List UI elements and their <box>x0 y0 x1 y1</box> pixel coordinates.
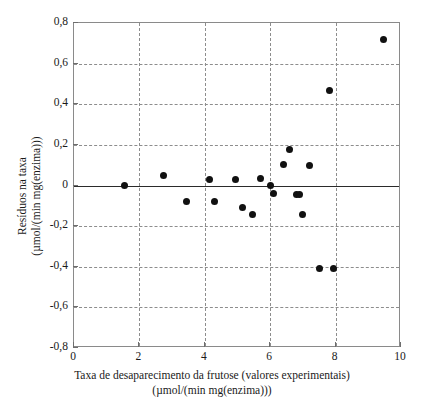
gridline-vertical <box>205 23 206 346</box>
data-point <box>306 162 313 169</box>
data-point <box>232 176 239 183</box>
gridline-vertical <box>336 23 337 346</box>
y-tick-label: -0,6 <box>50 300 68 312</box>
data-point <box>206 176 213 183</box>
data-point <box>316 265 323 272</box>
data-point <box>121 182 128 189</box>
data-point <box>380 36 387 43</box>
y-tick-mark <box>73 144 78 145</box>
x-tick-mark <box>269 342 270 347</box>
gridline-horizontal <box>74 104 399 105</box>
gridline-horizontal <box>74 64 399 65</box>
gridline-vertical <box>139 23 140 346</box>
y-tick-mark <box>73 347 78 348</box>
x-tick-label: 6 <box>266 350 272 362</box>
y-tick-label: -0,8 <box>50 341 68 353</box>
data-point <box>249 211 256 218</box>
y-tick-label: 0,8 <box>54 16 68 28</box>
x-tick-mark <box>400 342 401 347</box>
y-tick-label: 0,2 <box>54 138 68 150</box>
gridline-horizontal <box>74 145 399 146</box>
plot-area <box>73 22 400 347</box>
x-axis-title: Taxa de desaparecimento da frutose (valo… <box>0 368 424 398</box>
y-tick-mark <box>73 225 78 226</box>
x-tick-mark <box>73 342 74 347</box>
y-tick-mark <box>73 266 78 267</box>
y-tick-label: -0,4 <box>50 260 68 272</box>
data-point <box>299 211 306 218</box>
y-tick-label: 0 <box>62 179 68 191</box>
data-point <box>183 198 190 205</box>
x-tick-mark <box>335 342 336 347</box>
data-point <box>286 146 293 153</box>
data-point <box>267 182 274 189</box>
y-tick-label: 0,4 <box>54 97 68 109</box>
y-tick-mark <box>73 22 78 23</box>
gridline-horizontal <box>74 226 399 227</box>
y-tick-mark <box>73 103 78 104</box>
x-tick-label: 0 <box>70 350 76 362</box>
y-tick-mark <box>73 63 78 64</box>
data-point <box>239 204 246 211</box>
y-axis-title-line-1: Resíduos na taxa <box>15 81 29 311</box>
residual-scatter-figure: 0,80,60,40,20-0,2-0,4-0,6-0,8 0246810 Ta… <box>0 0 424 409</box>
x-axis-title-line-1: Taxa de desaparecimento da frutose (valo… <box>0 368 424 383</box>
x-tick-mark <box>138 342 139 347</box>
y-tick-mark <box>73 306 78 307</box>
x-tick-label: 2 <box>136 350 142 362</box>
x-tick-label: 8 <box>332 350 338 362</box>
data-point <box>270 190 277 197</box>
x-tick-label: 4 <box>201 350 207 362</box>
x-tick-mark <box>204 342 205 347</box>
data-point <box>257 175 264 182</box>
y-axis-title-line-2: (µmol/(min mg(enzima))) <box>29 81 43 311</box>
gridline-horizontal <box>74 307 399 308</box>
y-tick-label: 0,6 <box>54 57 68 69</box>
y-tick-label: -0,2 <box>50 219 68 231</box>
data-point <box>326 87 333 94</box>
x-axis-title-line-2: (µmol/(min mg(enzima))) <box>0 383 424 398</box>
data-point <box>296 191 303 198</box>
data-point <box>160 172 167 179</box>
gridline-horizontal <box>74 267 399 268</box>
data-point <box>211 198 218 205</box>
y-axis-title: Resíduos na taxa (µmol/(min mg(enzima))) <box>15 81 43 311</box>
y-tick-mark <box>73 185 78 186</box>
x-tick-label: 10 <box>394 350 406 362</box>
data-point <box>280 161 287 168</box>
